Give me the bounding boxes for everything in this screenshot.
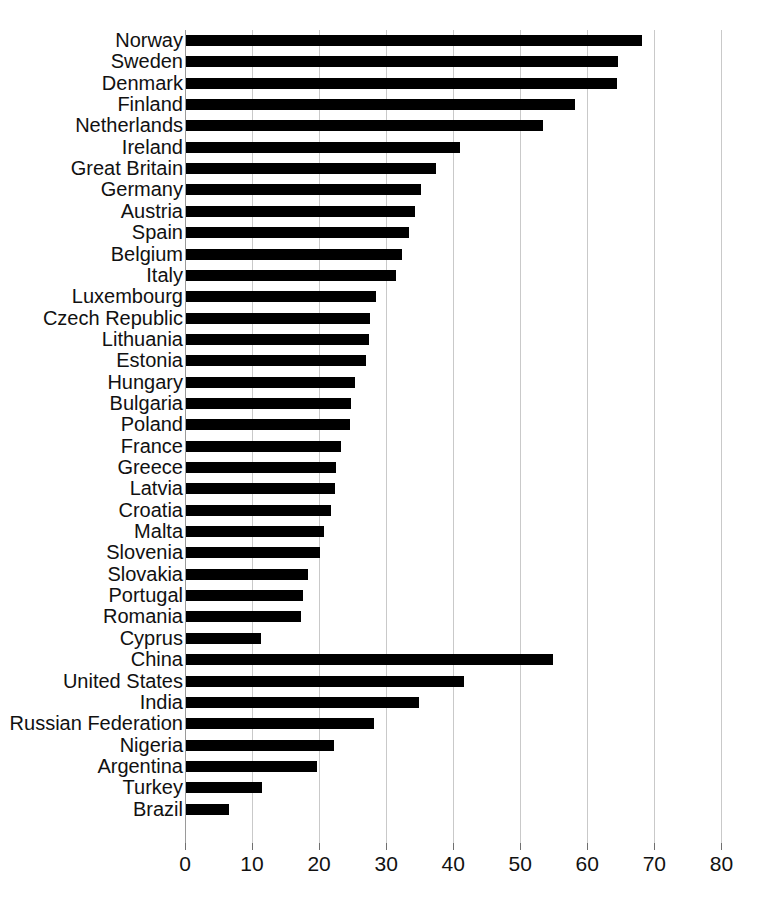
x-tick-80: [721, 843, 722, 850]
x-tick-label: 30: [356, 852, 416, 876]
bar: [186, 483, 335, 494]
bar: [186, 56, 618, 67]
bar: [186, 462, 336, 473]
category-label: Ireland: [0, 137, 183, 158]
bar: [186, 99, 575, 110]
category-label: Sweden: [0, 51, 183, 72]
bar-chart: 01020304050607080NorwaySwedenDenmarkFinl…: [0, 0, 775, 914]
x-tick-60: [587, 843, 588, 850]
category-label: Malta: [0, 521, 183, 542]
category-label: Germany: [0, 179, 183, 200]
bar: [186, 163, 436, 174]
category-label: Croatia: [0, 500, 183, 521]
bar: [186, 398, 351, 409]
bar: [186, 142, 460, 153]
chart-row: Ireland: [0, 137, 775, 158]
chart-row: Poland: [0, 414, 775, 435]
bar: [186, 35, 642, 46]
category-label: Greece: [0, 457, 183, 478]
category-label: Czech Republic: [0, 308, 183, 329]
x-tick-label: 80: [691, 852, 751, 876]
chart-row: Brazil: [0, 799, 775, 820]
chart-row: Hungary: [0, 372, 775, 393]
chart-row: Belgium: [0, 244, 775, 265]
chart-row: Great Britain: [0, 158, 775, 179]
chart-row: Austria: [0, 201, 775, 222]
x-tick-label: 20: [289, 852, 349, 876]
category-label: United States: [0, 671, 183, 692]
bar: [186, 184, 421, 195]
chart-row: Bulgaria: [0, 393, 775, 414]
chart-row: India: [0, 692, 775, 713]
category-label: Poland: [0, 414, 183, 435]
chart-row: Finland: [0, 94, 775, 115]
chart-row: Russian Federation: [0, 713, 775, 734]
category-label: Austria: [0, 201, 183, 222]
chart-row: Cyprus: [0, 628, 775, 649]
chart-row: Germany: [0, 179, 775, 200]
chart-row: United States: [0, 671, 775, 692]
plot-area: 01020304050607080NorwaySwedenDenmarkFinl…: [0, 0, 775, 914]
bar: [186, 291, 376, 302]
chart-row: Greece: [0, 457, 775, 478]
bar: [186, 120, 543, 131]
x-tick-70: [654, 843, 655, 850]
bar: [186, 313, 370, 324]
category-label: Finland: [0, 94, 183, 115]
category-label: Estonia: [0, 350, 183, 371]
bar: [186, 718, 374, 729]
category-label: India: [0, 692, 183, 713]
bar: [186, 633, 261, 644]
category-label: Portugal: [0, 585, 183, 606]
category-label: Argentina: [0, 756, 183, 777]
category-label: Denmark: [0, 73, 183, 94]
bar: [186, 227, 409, 238]
chart-row: Slovakia: [0, 564, 775, 585]
category-label: Great Britain: [0, 158, 183, 179]
chart-row: Denmark: [0, 73, 775, 94]
x-tick-20: [319, 843, 320, 850]
chart-row: Portugal: [0, 585, 775, 606]
category-label: Bulgaria: [0, 393, 183, 414]
category-label: Cyprus: [0, 628, 183, 649]
category-label: Nigeria: [0, 735, 183, 756]
chart-row: Norway: [0, 30, 775, 51]
category-label: Norway: [0, 30, 183, 51]
chart-row: Sweden: [0, 51, 775, 72]
category-label: Belgium: [0, 244, 183, 265]
x-tick-label: 60: [557, 852, 617, 876]
bar: [186, 590, 303, 601]
x-tick-0: [185, 843, 186, 850]
chart-row: Spain: [0, 222, 775, 243]
bar: [186, 740, 334, 751]
bar: [186, 804, 229, 815]
chart-row: France: [0, 436, 775, 457]
chart-row: Latvia: [0, 478, 775, 499]
category-label: Brazil: [0, 799, 183, 820]
x-tick-label: 50: [490, 852, 550, 876]
category-label: Russian Federation: [0, 713, 183, 734]
category-label: Lithuania: [0, 329, 183, 350]
bar: [186, 782, 262, 793]
chart-row: Turkey: [0, 777, 775, 798]
chart-row: Malta: [0, 521, 775, 542]
bar: [186, 355, 366, 366]
category-label: Turkey: [0, 777, 183, 798]
x-tick-label: 70: [624, 852, 684, 876]
category-label: France: [0, 436, 183, 457]
bar: [186, 419, 350, 430]
chart-row: Luxembourg: [0, 286, 775, 307]
x-tick-10: [252, 843, 253, 850]
category-label: Slovakia: [0, 564, 183, 585]
bar: [186, 547, 320, 558]
bar: [186, 676, 464, 687]
chart-row: Argentina: [0, 756, 775, 777]
bar: [186, 334, 369, 345]
x-tick-30: [386, 843, 387, 850]
x-tick-label: 40: [423, 852, 483, 876]
bar: [186, 377, 355, 388]
chart-row: Romania: [0, 606, 775, 627]
category-label: Netherlands: [0, 115, 183, 136]
bar: [186, 78, 617, 89]
chart-row: Lithuania: [0, 329, 775, 350]
